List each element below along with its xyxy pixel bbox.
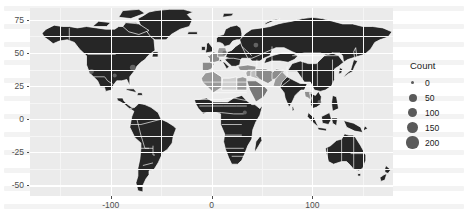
legend-key: 150 <box>404 120 466 135</box>
legend-label: 200 <box>425 138 439 148</box>
y-tick-mark <box>27 20 30 21</box>
y-tick-label: 0 <box>2 114 24 124</box>
country-shape-philippines <box>332 95 339 111</box>
legend-key: 100 <box>404 105 466 120</box>
gridline <box>363 8 364 196</box>
data-bubble-Africa-east <box>243 111 247 115</box>
data-bubble-USA-central <box>113 74 117 78</box>
legend-label: 150 <box>425 123 439 133</box>
gridline <box>60 8 61 196</box>
x-tick-mark <box>111 196 112 199</box>
country-shape-new-zealand-n <box>385 166 391 174</box>
y-tick-label: -25 <box>2 147 24 157</box>
legend-circle-icon <box>406 136 418 148</box>
y-tick-mark <box>27 185 30 186</box>
country-shape-egypt <box>237 77 247 90</box>
x-tick-label: -100 <box>91 200 131 210</box>
legend-circle-icon <box>407 122 418 133</box>
country-shape-papua-small <box>363 126 368 131</box>
country-shape-indochina <box>309 91 321 108</box>
legend-marker-slot <box>404 90 421 105</box>
country-shape-victoria-isl <box>93 21 111 26</box>
legend-key: 200 <box>404 135 466 150</box>
y-tick-label: -50 <box>2 180 24 190</box>
legend: Count 050100150200 <box>404 60 466 150</box>
x-tick-mark <box>212 196 213 199</box>
x-tick-label: 100 <box>292 200 332 210</box>
country-shape-java <box>317 127 326 131</box>
gridline <box>161 8 162 196</box>
country-shape-libya <box>222 77 237 90</box>
legend-label: 0 <box>425 78 430 88</box>
legend-circle-icon <box>411 81 414 84</box>
country-shape-iceland <box>187 32 197 35</box>
legend-circle-icon <box>408 108 418 118</box>
y-tick-mark <box>27 152 30 153</box>
country-shape-new-zealand-s <box>380 174 387 182</box>
country-shape-tasmania <box>358 174 361 177</box>
gridline <box>312 8 313 196</box>
country-shape-svalbard <box>223 13 234 17</box>
country-shape-sri-lanka <box>292 106 294 111</box>
legend-label: 100 <box>425 108 439 118</box>
y-tick-label: 50 <box>2 48 24 58</box>
legend-marker-slot <box>404 135 421 150</box>
y-tick-mark <box>27 53 30 54</box>
legend-marker-slot <box>404 75 421 90</box>
gridline <box>262 8 263 196</box>
legend-marker-slot <box>404 120 421 135</box>
y-tick-label: 25 <box>2 81 24 91</box>
gridline <box>212 8 213 196</box>
legend-label: 50 <box>425 93 434 103</box>
y-tick-mark <box>27 86 30 87</box>
country-shape-saudi-arabia <box>247 81 268 102</box>
legend-key-list: 050100150200 <box>404 75 466 150</box>
x-tick-mark <box>312 196 313 199</box>
country-shape-iran <box>256 69 274 84</box>
country-shape-madagascar <box>255 135 262 152</box>
x-tick-label: 0 <box>192 200 232 210</box>
plot-panel <box>30 8 393 196</box>
world-map-figure: Count 050100150200 7550250-25-50-1000100 <box>0 0 469 223</box>
gridline <box>111 8 112 196</box>
legend-title: Count <box>410 60 466 71</box>
data-bubble-Russia-west <box>254 43 259 48</box>
y-tick-mark <box>27 119 30 120</box>
country-shape-ireland <box>201 46 205 50</box>
y-tick-label: 75 <box>2 15 24 25</box>
legend-marker-slot <box>404 105 421 120</box>
legend-key: 0 <box>404 75 466 90</box>
legend-circle-icon <box>409 94 417 102</box>
legend-key: 50 <box>404 90 466 105</box>
country-shape-cuba <box>126 89 137 93</box>
country-shape-hispaniola <box>137 93 143 96</box>
country-shape-new-guinea <box>344 121 363 133</box>
